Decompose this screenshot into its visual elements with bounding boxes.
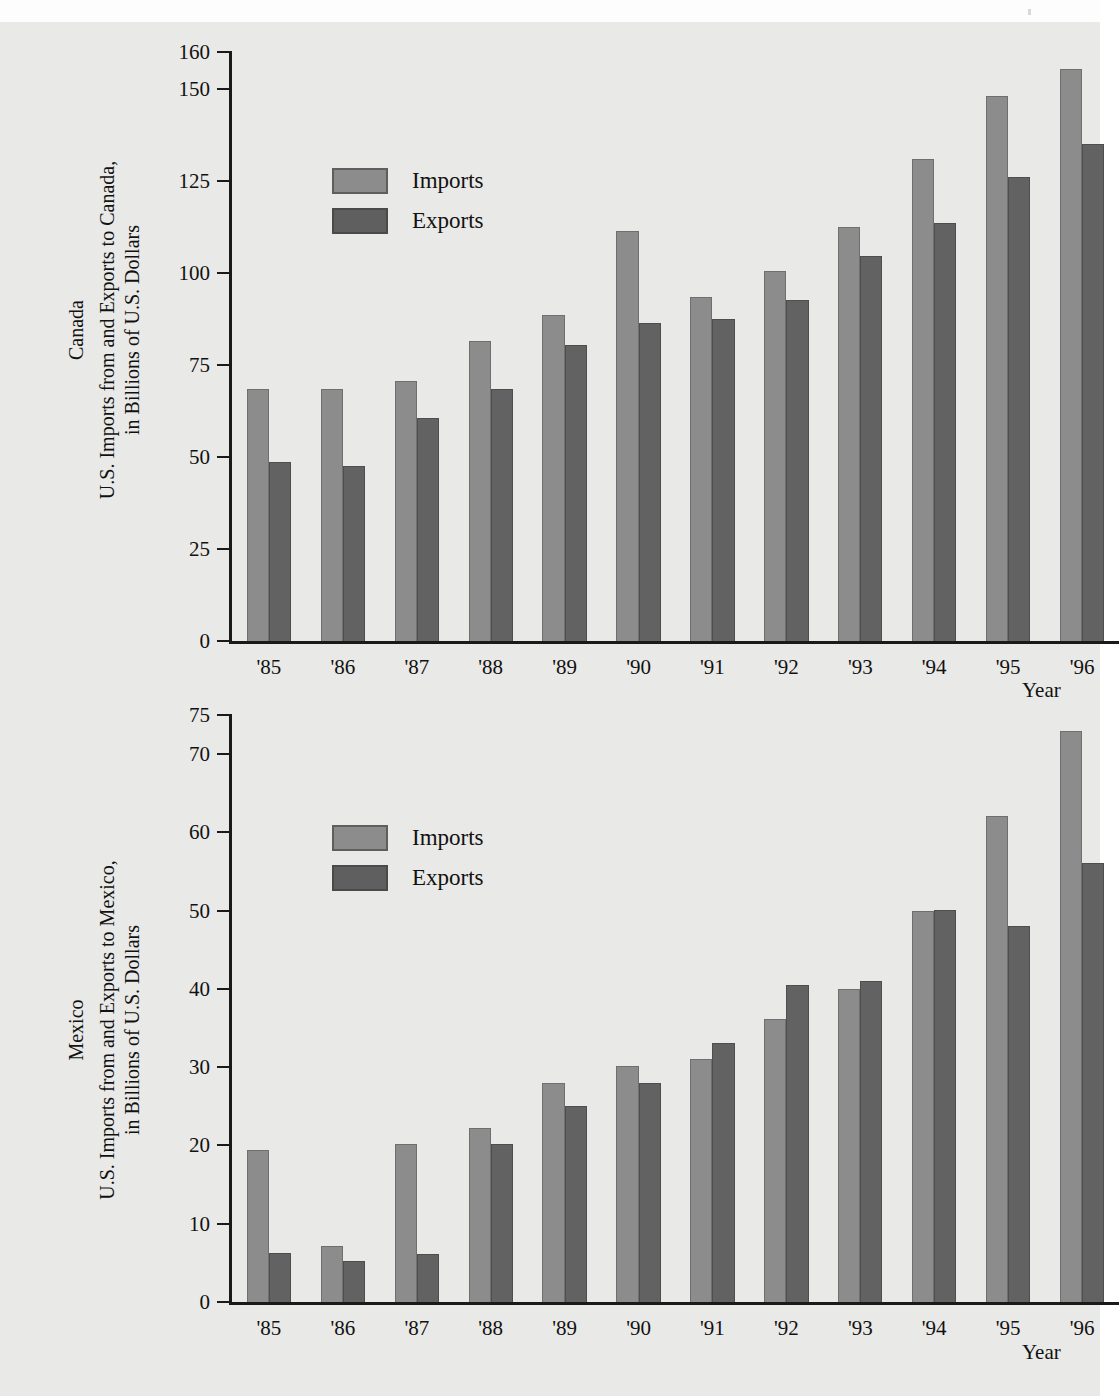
bar-mexico-exports-87 bbox=[417, 1254, 439, 1302]
y-axis-tick-canada-75 bbox=[217, 364, 232, 366]
bar-mexico-exports-96 bbox=[1082, 863, 1104, 1302]
bar-canada-imports-86 bbox=[321, 389, 343, 641]
legend-row-exports: Exports bbox=[332, 865, 484, 891]
y-axis-tick-canada-150 bbox=[217, 88, 232, 90]
x-axis-tick-label-canada-89: '89 bbox=[552, 655, 577, 680]
x-axis-tick-label-mexico-87: '87 bbox=[404, 1316, 429, 1341]
bar-canada-exports-96 bbox=[1082, 144, 1104, 641]
y-axis-caption-canada: Canada bbox=[64, 20, 89, 640]
legend-label-imports: Imports bbox=[412, 825, 484, 851]
legend-swatch-exports-icon bbox=[332, 208, 388, 234]
y-axis-tick-label-mexico-40: 40 bbox=[189, 976, 210, 1001]
y-axis-tick-label-mexico-50: 50 bbox=[189, 898, 210, 923]
x-axis-tick-label-canada-92: '92 bbox=[774, 655, 799, 680]
bar-mexico-imports-86 bbox=[321, 1246, 343, 1302]
y-axis-caption-line1-mexico: U.S. Imports from and Exports to Mexico, bbox=[95, 720, 120, 1340]
legend-swatch-exports-icon bbox=[332, 865, 388, 891]
x-axis-tick-label-mexico-85: '85 bbox=[257, 1316, 282, 1341]
x-axis-tick-label-mexico-89: '89 bbox=[552, 1316, 577, 1341]
plot-area-mexico: 01020304050607075'85'86'87'88'89'90'91'9… bbox=[229, 715, 1119, 1305]
bar-mexico-exports-93 bbox=[860, 981, 882, 1302]
y-axis-tick-canada-160 bbox=[217, 51, 232, 53]
y-axis-tick-label-canada-25: 25 bbox=[189, 536, 210, 561]
x-axis-tick-label-canada-96: '96 bbox=[1070, 655, 1095, 680]
bar-mexico-imports-95 bbox=[986, 816, 1008, 1302]
bar-canada-imports-90 bbox=[616, 231, 638, 641]
y-axis-tick-canada-100 bbox=[217, 272, 232, 274]
y-axis-tick-label-mexico-20: 20 bbox=[189, 1133, 210, 1158]
y-axis-tick-label-mexico-60: 60 bbox=[189, 820, 210, 845]
bar-canada-imports-96 bbox=[1060, 69, 1082, 641]
chart-canada: Canada U.S. Imports from and Exports to … bbox=[0, 0, 1100, 700]
y-axis-tick-label-canada-0: 0 bbox=[200, 629, 211, 654]
y-axis-tick-label-canada-125: 125 bbox=[179, 168, 211, 193]
bar-mexico-imports-92 bbox=[764, 1019, 786, 1302]
legend-row-imports: Imports bbox=[332, 168, 484, 194]
bar-canada-imports-95 bbox=[986, 96, 1008, 641]
x-axis-tick-label-canada-88: '88 bbox=[478, 655, 503, 680]
legend-swatch-imports-icon bbox=[332, 168, 388, 194]
bar-mexico-imports-94 bbox=[912, 911, 934, 1302]
x-axis-tick-label-mexico-94: '94 bbox=[922, 1316, 947, 1341]
x-axis-tick-label-canada-93: '93 bbox=[848, 655, 873, 680]
plot-area-canada: 0255075100125150160'85'86'87'88'89'90'91… bbox=[229, 52, 1119, 644]
y-axis-tick-canada-25 bbox=[217, 548, 232, 550]
x-axis-tick-label-canada-87: '87 bbox=[404, 655, 429, 680]
bar-mexico-exports-88 bbox=[491, 1144, 513, 1302]
bar-canada-exports-95 bbox=[1008, 177, 1030, 641]
legend-row-imports: Imports bbox=[332, 825, 484, 851]
x-axis-tick-label-mexico-96: '96 bbox=[1070, 1316, 1095, 1341]
y-axis-caption-canada-detail: U.S. Imports from and Exports to Canada,… bbox=[95, 20, 145, 640]
bar-mexico-imports-90 bbox=[616, 1066, 638, 1302]
bar-canada-imports-92 bbox=[764, 271, 786, 641]
y-axis-tick-label-canada-160: 160 bbox=[179, 40, 211, 65]
y-axis-tick-label-mexico-10: 10 bbox=[189, 1211, 210, 1236]
x-axis-tick-label-mexico-92: '92 bbox=[774, 1316, 799, 1341]
bar-mexico-imports-88 bbox=[469, 1128, 491, 1302]
bar-canada-exports-94 bbox=[934, 223, 956, 641]
x-axis-title-mexico: Year bbox=[1022, 1340, 1061, 1365]
y-axis-tick-mexico-0 bbox=[217, 1301, 232, 1303]
bar-mexico-exports-91 bbox=[712, 1043, 734, 1302]
bar-canada-imports-93 bbox=[838, 227, 860, 641]
x-axis-tick-label-mexico-88: '88 bbox=[478, 1316, 503, 1341]
y-axis-caption-mexico: Mexico bbox=[64, 720, 89, 1340]
x-axis-tick-label-mexico-90: '90 bbox=[626, 1316, 651, 1341]
y-axis-tick-mexico-75 bbox=[217, 714, 232, 716]
bar-mexico-imports-93 bbox=[838, 989, 860, 1302]
y-axis-tick-mexico-40 bbox=[217, 988, 232, 990]
bar-mexico-exports-86 bbox=[343, 1261, 365, 1302]
bar-canada-exports-85 bbox=[269, 462, 291, 641]
bar-mexico-exports-95 bbox=[1008, 926, 1030, 1302]
x-axis-tick-label-mexico-93: '93 bbox=[848, 1316, 873, 1341]
y-axis-tick-label-mexico-75: 75 bbox=[189, 703, 210, 728]
bar-canada-imports-88 bbox=[469, 341, 491, 641]
y-axis-region-label-mexico: Mexico bbox=[64, 720, 89, 1340]
bar-mexico-imports-91 bbox=[690, 1059, 712, 1302]
bar-mexico-exports-92 bbox=[786, 985, 808, 1302]
y-axis-tick-canada-50 bbox=[217, 456, 232, 458]
y-axis-tick-label-mexico-0: 0 bbox=[200, 1290, 211, 1315]
legend-row-exports: Exports bbox=[332, 208, 484, 234]
x-axis-tick-label-canada-85: '85 bbox=[257, 655, 282, 680]
bar-canada-imports-91 bbox=[690, 297, 712, 641]
y-axis-tick-mexico-30 bbox=[217, 1066, 232, 1068]
y-axis-caption-line2-mexico: in Billions of U.S. Dollars bbox=[120, 720, 145, 1340]
y-axis-tick-canada-0 bbox=[217, 640, 232, 642]
chart-mexico: Mexico U.S. Imports from and Exports to … bbox=[0, 700, 1100, 1396]
y-axis-tick-mexico-60 bbox=[217, 831, 232, 833]
bar-mexico-exports-90 bbox=[639, 1083, 661, 1302]
legend-label-imports: Imports bbox=[412, 168, 484, 194]
bar-mexico-exports-89 bbox=[565, 1106, 587, 1302]
y-axis-tick-label-canada-150: 150 bbox=[179, 76, 211, 101]
bar-canada-imports-87 bbox=[395, 381, 417, 641]
y-axis-tick-mexico-10 bbox=[217, 1223, 232, 1225]
bar-mexico-imports-87 bbox=[395, 1144, 417, 1302]
y-axis-caption-line1-canada: U.S. Imports from and Exports to Canada, bbox=[95, 20, 120, 640]
bar-canada-imports-89 bbox=[542, 315, 564, 641]
y-axis-region-label-canada: Canada bbox=[64, 20, 89, 640]
y-axis-tick-canada-125 bbox=[217, 180, 232, 182]
x-axis-tick-label-mexico-86: '86 bbox=[330, 1316, 355, 1341]
legend-mexico: Imports Exports bbox=[332, 825, 484, 905]
bar-canada-imports-94 bbox=[912, 159, 934, 641]
